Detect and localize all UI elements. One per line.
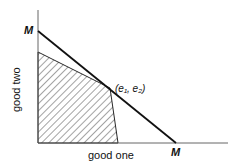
endowment-point-label: (e₁, e₂) [115,84,145,94]
x-intercept-label: M [171,147,180,158]
hatched-region [38,52,118,143]
y-intercept-label: M [24,25,33,36]
x-axis-label: good one [88,150,134,161]
y-axis-label: good two [10,72,22,112]
